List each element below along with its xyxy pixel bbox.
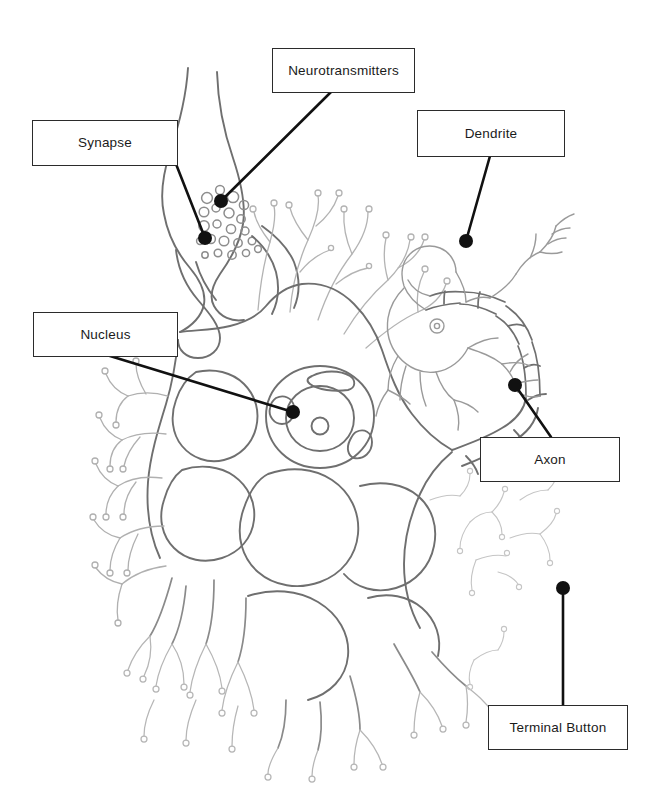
- label-text-axon: Axon: [534, 453, 566, 467]
- label-box-terminal-button[interactable]: Terminal Button: [488, 705, 628, 750]
- label-box-neurotransmitters[interactable]: Neurotransmitters: [272, 48, 415, 93]
- label-text-synapse: Synapse: [78, 136, 132, 150]
- label-box-axon[interactable]: Axon: [480, 437, 620, 482]
- label-text-nucleus: Nucleus: [80, 328, 130, 342]
- neuron-diagram-page: Synapse Neurotransmitters Dendrite Nucle…: [0, 0, 661, 792]
- label-box-synapse[interactable]: Synapse: [32, 120, 178, 166]
- label-box-nucleus[interactable]: Nucleus: [33, 312, 178, 357]
- label-box-dendrite[interactable]: Dendrite: [417, 110, 565, 157]
- label-text-terminal-button: Terminal Button: [510, 721, 607, 735]
- label-text-neurotransmitters: Neurotransmitters: [288, 64, 399, 78]
- label-text-dendrite: Dendrite: [465, 127, 518, 141]
